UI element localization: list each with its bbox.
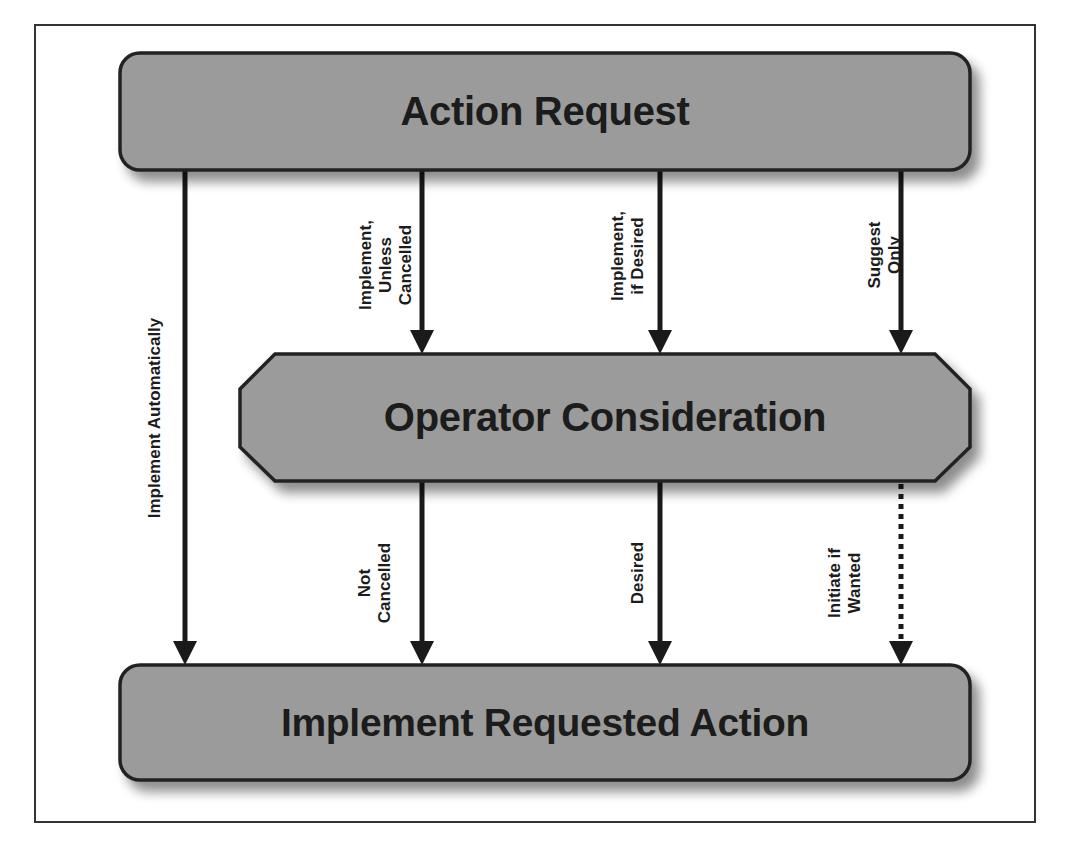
node-operator-consideration-label: Operator Consideration [384,395,826,440]
arrow-not-cancelled [410,481,434,665]
node-action-request: Action Request [120,53,970,170]
node-implement-requested-action: Implement Requested Action [120,665,970,780]
node-operator-consideration: Operator Consideration [240,354,970,481]
edge-label-initiate-if-wanted: Initiate if Wanted [822,523,868,643]
edge-label-not-cancelled: Not Cancelled [352,518,398,648]
arrowhead-icon [410,641,434,665]
arrowhead-icon [889,641,913,665]
arrow-implement-automatically [173,170,197,665]
arrowhead-icon [173,641,197,665]
edge-label-suggest-only: Suggest Only [862,185,908,325]
arrow-implement-if-desired [648,170,672,354]
arrowhead-icon [648,641,672,665]
node-implement-requested-action-label: Implement Requested Action [281,701,809,745]
arrowhead-icon [648,330,672,354]
node-action-request-label: Action Request [400,89,689,134]
edge-label-implement-if-desired: Implement, if Desired [605,181,651,331]
arrow-initiate-if-wanted [889,484,913,665]
edge-label-implement-unless-cancelled: Implement, Unless Cancelled [353,190,419,340]
arrowhead-icon [889,330,913,354]
arrow-desired [648,481,672,665]
edge-label-desired: Desired [625,523,651,623]
edge-label-implement-automatically: Implement Automatically [142,258,168,578]
